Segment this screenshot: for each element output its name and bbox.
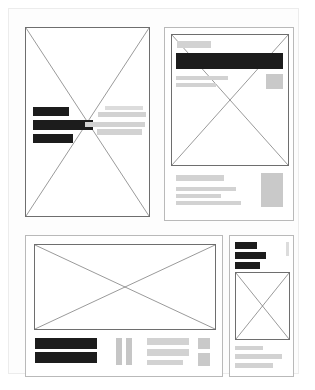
panel-top-right[interactable] [164, 27, 294, 221]
vertical-rule-2 [126, 338, 132, 365]
image-placeholder-cross [235, 272, 290, 340]
note-line-1 [235, 346, 263, 350]
vertical-rule-1 [116, 338, 122, 365]
lead-line-2 [176, 83, 216, 87]
footer-line-1 [176, 187, 236, 191]
footer-heading [176, 175, 224, 181]
cross-icon [236, 273, 289, 339]
caption-line-1 [105, 106, 143, 110]
wireframe-page [8, 8, 299, 374]
caption-line-2 [98, 112, 146, 117]
footer-line-3 [176, 201, 241, 205]
caption-bar-2 [35, 352, 97, 363]
note-line-3 [235, 363, 273, 368]
panel-bottom-left[interactable] [25, 235, 223, 377]
scroll-strip[interactable] [286, 242, 289, 256]
label-bar-1 [235, 242, 257, 249]
footer-thumbnail [261, 173, 283, 207]
side-block-top [198, 338, 210, 349]
kicker-chip [177, 41, 211, 48]
footer-line-2 [176, 194, 221, 198]
side-block-bottom [198, 353, 210, 366]
headline-banner [176, 53, 283, 69]
lead-line-1 [176, 76, 228, 80]
label-bar-2 [235, 252, 266, 259]
image-placeholder-cross [34, 244, 216, 330]
side-thumbnail [266, 74, 283, 89]
panel-top-left[interactable] [25, 27, 150, 217]
title-bar [33, 120, 93, 130]
cross-icon [35, 245, 215, 329]
body-line-2 [147, 349, 189, 356]
label-bar-3 [235, 262, 260, 269]
panel-bottom-right[interactable] [229, 235, 294, 377]
body-line-1 [147, 338, 189, 345]
subtitle-bar [33, 134, 73, 143]
caption-bar-1 [35, 338, 97, 349]
note-line-2 [235, 354, 282, 359]
heading-bar [33, 107, 69, 116]
body-line-3 [147, 360, 183, 365]
caption-line-3 [85, 122, 145, 127]
caption-line-4 [97, 129, 142, 135]
